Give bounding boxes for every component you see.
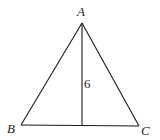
triangle-diagram [0,0,160,140]
altitude-length-label: 6 [84,77,91,90]
vertex-label-c: C [141,124,150,137]
side-ac [82,23,139,126]
side-bc [21,125,139,126]
side-ab [21,23,82,125]
vertex-label-b: B [7,122,15,135]
vertex-label-a: A [77,5,85,18]
